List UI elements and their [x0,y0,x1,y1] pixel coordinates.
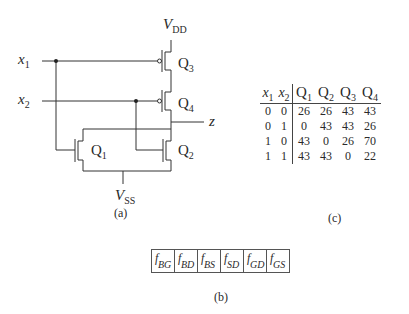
cell: 1 [276,119,293,134]
header-q4-sub: 4 [373,92,378,103]
fault-cell-sub: GD [250,259,264,270]
header-q1-sub: 1 [307,92,312,103]
fault-cell-sub: BS [204,259,215,270]
q1-label: Q1 [91,143,107,158]
cell: 0 [276,104,293,120]
header-q2-sub: 2 [329,92,334,103]
cell: 43 [315,119,337,134]
fault-cell-bd: fBD [175,250,198,272]
header-q2: Q2 [315,84,337,104]
q4-main: Q [178,95,189,111]
header-x2-sub: 2 [285,92,290,103]
q2-sub: 2 [189,150,194,161]
header-x2-main: x [278,85,284,100]
table-row: 0 1 0 43 43 26 [260,119,381,134]
q1-sub: 1 [102,150,107,161]
output-z-label: z [209,114,215,129]
vss-sub: SS [124,195,135,206]
header-q3: Q3 [337,84,359,104]
q3-label: Q3 [178,56,194,71]
header-x1-main: x [262,85,268,100]
fault-cell-sub: BD [181,259,194,270]
fault-table: x1 x2 Q1 Q2 Q3 Q4 0 0 26 26 43 43 0 1 0 … [260,84,381,164]
cell: 43 [337,119,359,134]
header-q3-sub: 3 [351,92,356,103]
fault-cell-sub: GS [273,259,285,270]
cell: 0 [337,149,359,164]
q4-sub: 4 [189,103,194,114]
x2-main: x [18,91,25,107]
cell: 0 [293,119,316,134]
fault-cell-gs: fGS [267,250,289,272]
cell: 26 [315,104,337,120]
fault-cell-bs: fBS [198,250,221,272]
fault-cell-sd: fSD [221,250,244,272]
cell: 43 [293,149,316,164]
cell: 43 [359,104,381,120]
cell: 22 [359,149,381,164]
vdd-main: V [163,16,172,32]
fault-cell-sub: SD [227,259,239,270]
x1-sub: 1 [25,59,30,70]
header-q1-main: Q [296,84,307,100]
caption-c: (c) [328,211,341,226]
caption-b: (b) [214,290,228,305]
table-row: 1 1 43 43 0 22 [260,149,381,164]
table-header-row: x1 x2 Q1 Q2 Q3 Q4 [260,84,381,104]
vdd-sub: DD [172,24,186,35]
header-x1-sub: 1 [269,92,274,103]
cell: 1 [260,149,276,164]
q2-main: Q [178,142,189,158]
table-row: 1 0 43 0 26 70 [260,134,381,149]
input-x2-label: x2 [18,92,30,107]
x2-sub: 2 [25,99,30,110]
vdd-label: VDD [163,17,187,32]
fault-cell-sub: BG [158,259,171,270]
cell: 0 [260,104,276,120]
cell: 43 [315,149,337,164]
header-q1: Q1 [293,84,316,104]
header-q4-main: Q [362,84,373,100]
cell: 1 [260,134,276,149]
input-x1-label: x1 [18,52,30,67]
fault-cell-bg: fBG [152,250,175,272]
cell: 26 [293,104,316,120]
table-row: 0 0 26 26 43 43 [260,104,381,120]
cell: 0 [260,119,276,134]
cell: 43 [337,104,359,120]
q1-main: Q [91,142,102,158]
cell: 43 [293,134,316,149]
fault-vector-box: fBG fBD fBS fSD fGD fGS [151,249,290,273]
cell: 26 [337,134,359,149]
vss-main: V [115,187,124,203]
caption-a: (a) [114,206,127,221]
cell: 26 [359,119,381,134]
header-q4: Q4 [359,84,381,104]
x1-main: x [18,51,25,67]
header-x2: x2 [276,84,293,104]
header-q3-main: Q [340,84,351,100]
header-x1: x1 [260,84,276,104]
q2-label: Q2 [178,143,194,158]
q3-sub: 3 [189,63,194,74]
q4-label: Q4 [178,96,194,111]
cell: 0 [276,134,293,149]
fault-cell-gd: fGD [244,250,267,272]
vss-label: VSS [115,188,135,203]
cell: 0 [315,134,337,149]
header-q2-main: Q [318,84,329,100]
cell: 70 [359,134,381,149]
cell: 1 [276,149,293,164]
q3-main: Q [178,55,189,71]
